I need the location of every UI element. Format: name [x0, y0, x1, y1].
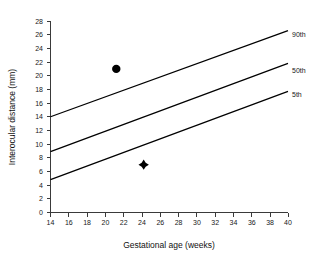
interocular-distance-chart: 0 2 4 6 8 10 12 14 16 18 20 22 24 26 28 [0, 0, 318, 259]
x-axis-title: Gestational age (weeks) [123, 240, 215, 250]
x-tick-label: 26 [156, 219, 164, 226]
x-tick-label: 36 [248, 219, 256, 226]
y-tick-label: 0 [39, 209, 43, 216]
chart-container: 0 2 4 6 8 10 12 14 16 18 20 22 24 26 28 [0, 0, 318, 259]
x-tick-label: 40 [284, 219, 292, 226]
x-tick-label: 32 [211, 219, 219, 226]
circle-point-marker [112, 65, 120, 73]
x-tick-label: 24 [138, 219, 146, 226]
y-tick-label: 22 [35, 59, 43, 66]
y-tick-label: 26 [35, 31, 43, 38]
x-tick-label: 38 [266, 219, 274, 226]
series-label-50th: 50th [292, 67, 306, 74]
x-tick-label: 20 [102, 219, 110, 226]
x-tick-label: 22 [120, 219, 128, 226]
series-label-5th: 5th [292, 91, 302, 98]
x-tick-label: 14 [47, 219, 55, 226]
y-axis-title: Interocular distance (mm) [7, 69, 17, 166]
y-tick-label: 18 [35, 86, 43, 93]
x-tick-label: 34 [230, 219, 238, 226]
y-tick-label: 14 [35, 113, 43, 120]
y-tick-label: 4 [39, 182, 43, 189]
y-tick-label: 2 [39, 195, 43, 202]
x-tick-label: 30 [193, 219, 201, 226]
x-tick-label: 18 [83, 219, 91, 226]
y-tick-label: 28 [35, 18, 43, 25]
y-tick-label: 20 [35, 72, 43, 79]
y-tick-label: 16 [35, 100, 43, 107]
y-tick-label: 10 [35, 141, 43, 148]
x-tick-label: 16 [65, 219, 73, 226]
y-tick-label: 8 [39, 154, 43, 161]
y-tick-label: 12 [35, 127, 43, 134]
y-tick-label: 6 [39, 168, 43, 175]
x-tick-label: 28 [175, 219, 183, 226]
series-label-90th: 90th [292, 31, 306, 38]
y-tick-label: 24 [35, 45, 43, 52]
